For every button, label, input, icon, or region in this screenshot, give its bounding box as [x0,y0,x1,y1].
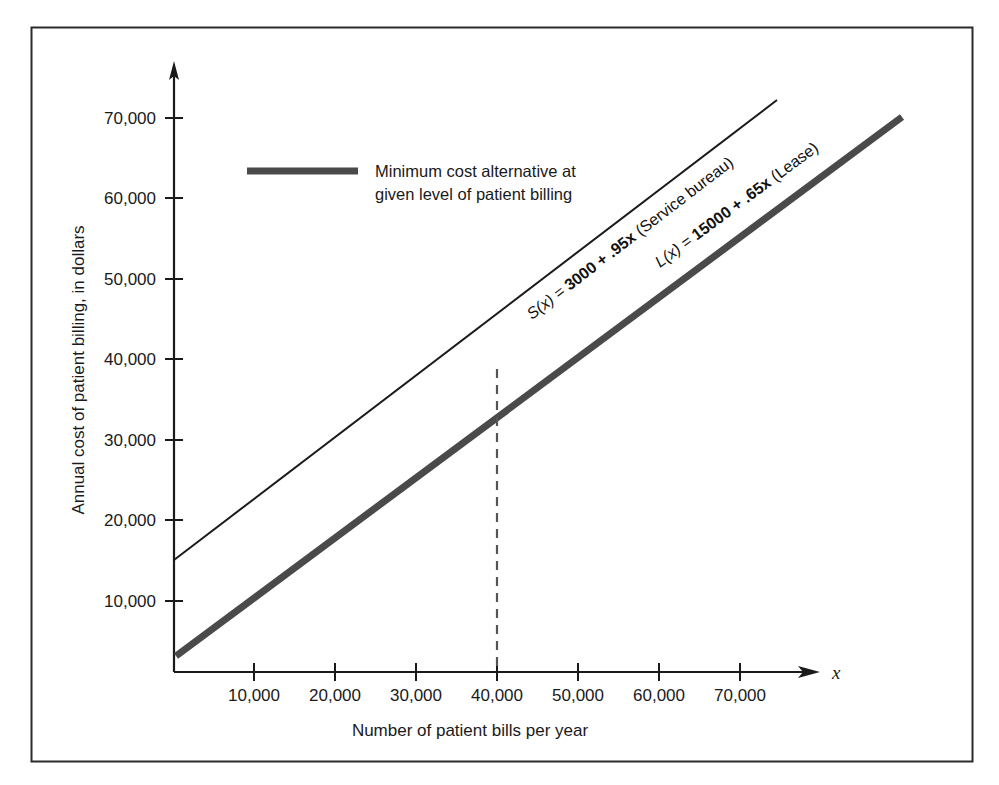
x-tick-label: 10,000 [228,686,280,705]
legend-label-line2: given level of patient billing [375,185,572,203]
x-axis-title: Number of patient bills per year [352,721,589,740]
y-tick-label: 20,000 [104,511,156,530]
x-axis-variable-label: x [831,662,841,683]
x-tick-label: 30,000 [390,686,442,705]
x-tick-label: 50,000 [552,686,604,705]
x-tick-label: 70,000 [714,686,766,705]
x-tick-label: 60,000 [633,686,685,705]
x-tick-label: 40,000 [471,686,523,705]
y-tick-label: 50,000 [104,270,156,289]
legend-label-line1: Minimum cost alternative at [375,162,576,180]
x-tick-label: 20,000 [309,686,361,705]
cost-comparison-chart: x 10,000 20,000 30,000 40,000 50,000 60,… [0,0,999,785]
y-tick-label: 60,000 [104,189,156,208]
y-tick-label: 30,000 [104,431,156,450]
y-tick-label: 40,000 [104,350,156,369]
figure-root: x 10,000 20,000 30,000 40,000 50,000 60,… [0,0,999,785]
y-axis-title: Annual cost of patient billing, in dolla… [69,225,88,514]
figure-frame [32,28,973,762]
y-tick-label: 70,000 [104,109,156,128]
y-tick-label: 10,000 [104,592,156,611]
